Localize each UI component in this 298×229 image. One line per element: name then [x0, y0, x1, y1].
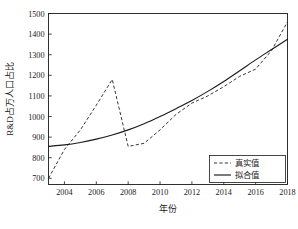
y-tick-label: 1200 [28, 71, 44, 80]
x-tick-label: 2018 [279, 188, 295, 197]
x-tick-label: 2008 [120, 188, 136, 197]
x-axis-title: 年份 [159, 203, 177, 214]
x-tick-label: 2010 [152, 188, 168, 197]
line-chart: 700800900100011001200130014001500 200420… [0, 0, 298, 229]
x-tick-label: 2006 [88, 188, 104, 197]
chart-legend: 真实值 拟合值 [210, 156, 286, 183]
x-tick-label: 2016 [247, 188, 263, 197]
y-tick-label: 1000 [28, 113, 44, 122]
x-tick-label: 2012 [184, 188, 200, 197]
y-tick-label: 700 [32, 174, 44, 183]
y-axis-title: R&D占万人口占比 [4, 62, 15, 136]
y-tick-label: 900 [32, 133, 44, 142]
chart-figure: 700800900100011001200130014001500 200420… [0, 0, 298, 229]
legend-label-fitted: 拟合值 [235, 170, 260, 180]
y-tick-label: 800 [32, 154, 44, 163]
y-tick-label: 1100 [28, 92, 44, 101]
legend-label-actual: 真实值 [235, 158, 260, 168]
y-tick-label: 1300 [28, 51, 44, 60]
x-tick-label: 2014 [216, 188, 232, 197]
y-tick-label: 1400 [28, 30, 44, 39]
x-tick-label: 2004 [56, 188, 72, 197]
y-tick-label: 1500 [28, 10, 44, 19]
